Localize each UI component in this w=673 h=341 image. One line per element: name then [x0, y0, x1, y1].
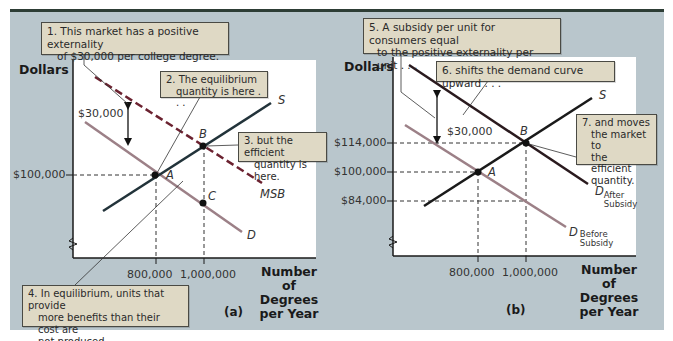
- panel-a-x-tick-1000000: 1,000,000: [180, 268, 236, 281]
- panel-b-demand-after-label: D After Subsidy: [595, 184, 637, 209]
- panel-b-x-tick-1000000: 1,000,000: [502, 266, 558, 279]
- callout-2: 2. The equilibrium quantity is here . . …: [160, 71, 268, 98]
- panel-a-x-axis-title: Number of Degrees per Year: [253, 265, 325, 321]
- panel-a-supply-label: S: [278, 93, 285, 107]
- panel-b-point-a-label: A: [488, 165, 496, 179]
- callout-4: 4. In equilibrium, units that provide mo…: [22, 285, 189, 327]
- panel-a-y-axis-title: Dollars: [19, 62, 69, 77]
- panel-b-demand-before-label: D Before Subsidy: [569, 225, 613, 248]
- panel-b-point-b-label: B: [520, 124, 528, 138]
- panel-a-point-a-label: A: [166, 168, 174, 182]
- callout-3-leader: [206, 145, 238, 146]
- callout-1: 1. This market has a positive externalit…: [41, 22, 229, 55]
- panel-a-tag: (a): [224, 305, 243, 319]
- panel-b-tag: (b): [506, 303, 526, 317]
- panel-b-point-a: [475, 169, 482, 176]
- panel-b-y-tick-100000: $100,000: [334, 165, 387, 178]
- panel-a-point-b: [200, 143, 207, 150]
- panel-b-point-b: [523, 140, 530, 147]
- panel-a-demand-label: D: [247, 228, 256, 242]
- panel-a-point-b-label: B: [199, 127, 207, 141]
- callout-5: 5. A subsidy per unit for consumers equa…: [363, 18, 561, 54]
- panel-b-supply-label: S: [599, 88, 606, 102]
- panel-a-y-tick-100000: $100,000: [13, 168, 66, 181]
- callout-3: 3. but the efficient quantity is here.: [238, 132, 327, 162]
- panel-a-gap-label: $30,000: [78, 107, 124, 120]
- panel-a-demand-curve: [85, 122, 242, 232]
- panel-b-y-tick-114000: $114,000: [334, 136, 387, 149]
- panel-b-demand-before-curve: [405, 125, 566, 227]
- panel-a-point-c-label: C: [208, 189, 216, 203]
- panel-b-y-tick-84000: $84,000: [341, 194, 387, 207]
- callout-7: 7. and moves the market to the efficient…: [576, 114, 657, 165]
- callout-6: 6. shifts the demand curve upward . . .: [436, 61, 615, 82]
- panel-a-msb-label: MSB: [260, 187, 285, 201]
- panel-b-x-axis-title: Number of Degrees per Year: [573, 263, 645, 319]
- panel-b-gap-label: $30,000: [447, 125, 493, 138]
- panel-a-x-tick-800000: 800,000: [127, 268, 173, 281]
- panel-b-x-tick-800000: 800,000: [449, 266, 495, 279]
- panel-a-point-c: [200, 200, 207, 207]
